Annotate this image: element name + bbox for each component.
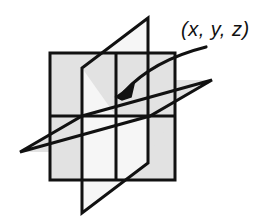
- coordinate-planes-figure: (x, y, z): [0, 0, 273, 220]
- coordinate-point-label: (x, y, z): [181, 19, 250, 39]
